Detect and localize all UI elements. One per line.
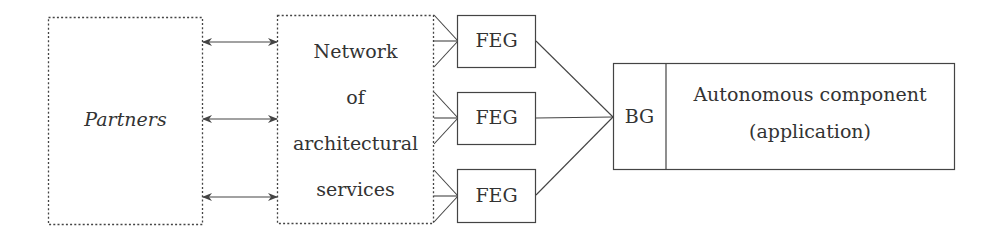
application-label-line-1: Autonomous component	[666, 83, 954, 105]
fan-in-feg-2	[434, 92, 458, 144]
fan-in-feg-3	[434, 170, 458, 222]
feg-label-2: FEG	[457, 106, 536, 128]
network-label-line-1: Network	[277, 40, 434, 62]
network-label-line-4: services	[277, 178, 434, 200]
network-label-line-3: architectural	[277, 132, 434, 154]
bg-label: BG	[613, 105, 666, 127]
network-label-line-2: of	[277, 86, 434, 108]
partners-label: Partners	[48, 108, 203, 130]
feg-to-bg-lines	[536, 41, 613, 195]
feg-label-3: FEG	[457, 184, 536, 206]
fan-in-feg-1	[434, 15, 458, 67]
feg-label-1: FEG	[457, 29, 536, 51]
application-label-line-2: (application)	[666, 120, 954, 142]
